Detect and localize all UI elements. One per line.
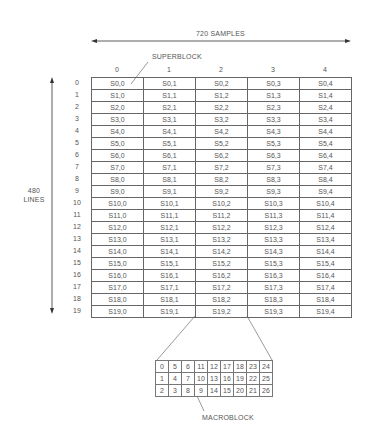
table-row: 147101316192225 [156, 373, 273, 385]
row-header: 2 [70, 101, 84, 113]
superblock-grid: S0,0S0,1S0,2S0,3S0,4S1,0S1,1S1,2S1,3S1,4… [91, 77, 352, 318]
superblock-cell: S16,0 [92, 270, 144, 282]
superblock-cell: S3,2 [196, 114, 248, 126]
table-row: S8,0S8,1S8,2S8,3S8,4 [92, 174, 352, 186]
superblock-cell: S11,1 [144, 210, 196, 222]
superblock-cell: S12,3 [248, 222, 300, 234]
table-row: S18,0S18,1S18,2S18,3S18,4 [92, 294, 352, 306]
macroblock-cell: 1 [156, 373, 169, 385]
macroblock-cell: 25 [260, 373, 273, 385]
table-row: S5,0S5,1S5,2S5,3S5,4 [92, 138, 352, 150]
samples-label: 720 SAMPLES [196, 30, 245, 37]
superblock-cell: S7,2 [196, 162, 248, 174]
macroblock-cell: 11 [195, 361, 208, 373]
row-header: 14 [70, 245, 84, 257]
superblock-cell: S6,1 [144, 150, 196, 162]
superblock-cell: S19,0 [92, 306, 144, 318]
macroblock-cell: 0 [156, 361, 169, 373]
arrow-left-icon [91, 39, 97, 43]
superblock-cell: S8,4 [300, 174, 352, 186]
table-row: S3,0S3,1S3,2S3,3S3,4 [92, 114, 352, 126]
superblock-cell: S14,2 [196, 246, 248, 258]
table-row: 23891415202126 [156, 385, 273, 397]
arrow-down-icon [50, 308, 54, 314]
superblock-cell: S9,0 [92, 186, 144, 198]
macroblock-pointer [197, 396, 204, 411]
lines-label-text: LINES [18, 196, 50, 203]
table-row: S17,0S17,1S17,2S17,3S17,4 [92, 282, 352, 294]
superblock-cell: S10,1 [144, 198, 196, 210]
row-header: 4 [70, 125, 84, 137]
table-row: S11,0S11,1S11,2S11,3S11,4 [92, 210, 352, 222]
superblock-cell: S7,3 [248, 162, 300, 174]
superblock-label: SUPERBLOCK [152, 53, 202, 60]
superblock-cell: S17,2 [196, 282, 248, 294]
superblock-cell: S16,4 [300, 270, 352, 282]
superblock-cell: S8,3 [248, 174, 300, 186]
macroblock-cell: 4 [169, 373, 182, 385]
superblock-cell: S2,2 [196, 102, 248, 114]
superblock-cell: S10,3 [248, 198, 300, 210]
superblock-cell: S15,3 [248, 258, 300, 270]
superblock-cell: S19,1 [144, 306, 196, 318]
macroblock-cell: 23 [247, 361, 260, 373]
table-row: S1,0S1,1S1,2S1,3S1,4 [92, 90, 352, 102]
superblock-cell: S17,4 [300, 282, 352, 294]
table-row: S12,0S12,1S12,2S12,3S12,4 [92, 222, 352, 234]
superblock-cell: S12,2 [196, 222, 248, 234]
superblock-cell: S7,4 [300, 162, 352, 174]
superblock-cell: S6,2 [196, 150, 248, 162]
superblock-cell: S15,1 [144, 258, 196, 270]
row-header: 7 [70, 161, 84, 173]
superblock-cell: S1,4 [300, 90, 352, 102]
table-row: S15,0S15,1S15,2S15,3S15,4 [92, 258, 352, 270]
row-header: 18 [70, 293, 84, 305]
superblock-cell: S11,2 [196, 210, 248, 222]
table-row: S9,0S9,1S9,2S9,3S9,4 [92, 186, 352, 198]
row-header: 6 [70, 149, 84, 161]
superblock-cell: S9,3 [248, 186, 300, 198]
table-row: S4,0S4,1S4,2S4,3S4,4 [92, 126, 352, 138]
superblock-cell: S3,1 [144, 114, 196, 126]
column-header: 1 [143, 66, 195, 73]
superblock-cell: S13,0 [92, 234, 144, 246]
row-header: 19 [70, 305, 84, 317]
row-header: 8 [70, 173, 84, 185]
superblock-cell: S16,1 [144, 270, 196, 282]
superblock-cell: S1,3 [248, 90, 300, 102]
macroblock-cell: 3 [169, 385, 182, 397]
superblock-cell: S12,4 [300, 222, 352, 234]
superblock-cell: S2,4 [300, 102, 352, 114]
superblock-cell: S4,4 [300, 126, 352, 138]
superblock-cell: S0,3 [248, 78, 300, 90]
macroblock-cell: 13 [208, 373, 221, 385]
table-row: S13,0S13,1S13,2S13,3S13,4 [92, 234, 352, 246]
superblock-cell: S14,0 [92, 246, 144, 258]
macroblock-cell: 5 [169, 361, 182, 373]
row-header: 3 [70, 113, 84, 125]
macroblock-cell: 9 [195, 385, 208, 397]
superblock-cell: S14,3 [248, 246, 300, 258]
superblock-cell: S19,3 [248, 306, 300, 318]
superblock-cell: S10,0 [92, 198, 144, 210]
superblock-cell: S3,4 [300, 114, 352, 126]
macroblock-cell: 7 [182, 373, 195, 385]
arrow-up-icon [50, 77, 54, 83]
superblock-cell: S17,1 [144, 282, 196, 294]
row-header: 12 [70, 221, 84, 233]
row-header: 10 [70, 197, 84, 209]
superblock-cell: S6,3 [248, 150, 300, 162]
macroblock-cell: 14 [208, 385, 221, 397]
superblock-cell: S12,1 [144, 222, 196, 234]
macroblock-cell: 16 [221, 373, 234, 385]
superblock-cell: S15,0 [92, 258, 144, 270]
column-header: 0 [91, 66, 143, 73]
macroblock-cell: 17 [221, 361, 234, 373]
superblock-cell: S0,1 [144, 78, 196, 90]
superblock-cell: S0,0 [92, 78, 144, 90]
row-header: 11 [70, 209, 84, 221]
superblock-cell: S18,3 [248, 294, 300, 306]
macroblock-cell: 24 [260, 361, 273, 373]
superblock-cell: S5,2 [196, 138, 248, 150]
superblock-cell: S8,1 [144, 174, 196, 186]
